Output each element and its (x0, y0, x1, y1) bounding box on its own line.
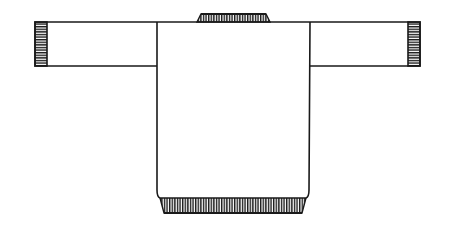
left-sleeve (35, 22, 157, 66)
body (157, 22, 310, 198)
hem-ribbing (160, 198, 306, 213)
right-sleeve (310, 22, 420, 66)
right-cuff-ribbing (408, 22, 420, 66)
sweater-diagram (0, 0, 456, 229)
left-cuff-ribbing (35, 22, 47, 66)
neckband-ribbing (197, 14, 270, 22)
